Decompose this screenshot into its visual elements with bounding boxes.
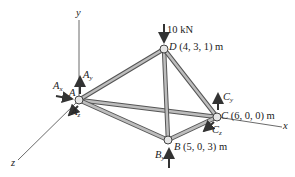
truss-drawing: [0, 0, 295, 177]
reaction-By-label: By: [155, 150, 165, 162]
load-label: 10 kN: [167, 25, 193, 36]
joint-D: [160, 45, 168, 53]
joint-C: [213, 113, 221, 121]
member-BD: [164, 49, 168, 140]
joint-B: [164, 136, 172, 144]
joint-C-label: C (6, 0, 0) m: [221, 111, 275, 122]
reaction-Ay-label: Ay: [83, 70, 93, 82]
z-axis: [18, 100, 79, 160]
reaction-Cz-label: Cz: [212, 125, 222, 137]
reaction-Ax-label: Ax: [53, 81, 63, 93]
member-CD: [164, 49, 217, 117]
z-axis-label: z: [11, 158, 15, 169]
y-axis-label: y: [76, 8, 81, 19]
members: [79, 49, 217, 140]
member-BC: [168, 117, 217, 140]
joint-A-label: A: [69, 88, 75, 99]
reaction-Cy-label: Cy: [223, 92, 233, 104]
joint-D-label: D (4, 3, 1) m: [169, 42, 223, 53]
reaction-Az-label: Az: [71, 107, 80, 119]
x-axis-label: x: [283, 121, 288, 132]
truss-diagram: y x z 10 kN D (4, 3, 1) m C (6, 0, 0) m …: [0, 0, 295, 177]
joint-A: [75, 96, 83, 104]
joint-B-label: B (5, 0, 3) m: [174, 142, 227, 153]
